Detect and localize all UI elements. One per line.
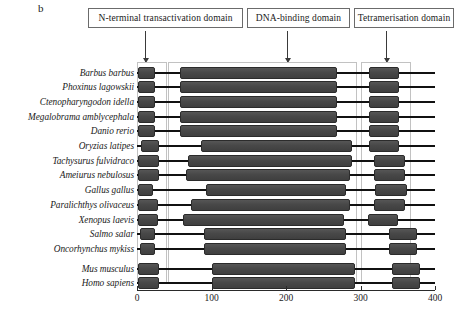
domain-box-n-terminal: [138, 81, 154, 93]
axis-tick-label: 200: [266, 293, 306, 303]
domain-box-dna-binding: [212, 263, 355, 275]
domain-box-tetramerisation: [369, 111, 399, 123]
domain-box-tetramerisation: [369, 67, 399, 79]
arrow-n-terminal-icon: [141, 31, 150, 62]
domain-box-tetramerisation: [389, 228, 417, 240]
domain-box-n-terminal: [141, 140, 159, 152]
domain-box-tetramerisation: [368, 214, 398, 226]
species-label: Xenopus laevis: [79, 213, 134, 227]
domain-box-tetramerisation: [389, 243, 417, 255]
table-row: Tachysurus fulvidraco: [0, 154, 455, 168]
table-row: Oryzias latipes: [0, 139, 455, 153]
species-label: Ameiurus nebulosus: [60, 168, 134, 182]
axis-tick: [361, 286, 362, 290]
domain-box-dna-binding: [212, 277, 355, 289]
figure-panel-b: b N-terminal transactivation domain DNA-…: [0, 0, 455, 310]
domain-box-tetramerisation: [369, 81, 399, 93]
domain-box-dna-binding: [201, 140, 351, 152]
domain-box-n-terminal: [138, 277, 159, 289]
axis-tick-label: 0: [117, 293, 157, 303]
axis-line: [137, 290, 435, 291]
domain-box-tetramerisation: [369, 96, 399, 108]
domain-box-dna-binding: [183, 214, 344, 226]
domain-box-n-terminal: [138, 263, 159, 275]
species-label: Homo sapiens: [82, 276, 134, 290]
domain-box-n-terminal: [140, 228, 155, 240]
domain-box-dna-binding: [180, 67, 336, 79]
domain-box-n-terminal: [138, 169, 159, 181]
domain-box-n-terminal: [138, 111, 154, 123]
domain-box-n-terminal: [138, 96, 154, 108]
species-label: Gallus gallus: [85, 183, 134, 197]
species-label: Paralichthys olivaceus: [50, 198, 134, 212]
axis-tick-label: 400: [415, 293, 455, 303]
domain-box-tetramerisation: [375, 184, 406, 196]
domain-box-tetramerisation: [374, 169, 405, 181]
table-row: Ctenopharyngodon idella: [0, 95, 455, 109]
domain-box-dna-binding: [188, 155, 352, 167]
table-row: Ameiurus nebulosus: [0, 168, 455, 182]
domain-box-dna-binding: [180, 96, 336, 108]
axis-tick: [212, 286, 213, 290]
panel-letter: b: [38, 2, 44, 14]
domain-box-dna-binding: [180, 111, 336, 123]
table-row: Megalobrama amblycephala: [0, 110, 455, 124]
species-label: Barbus barbus: [80, 66, 134, 80]
table-row: Gallus gallus: [0, 183, 455, 197]
domain-box-tetramerisation: [369, 140, 399, 152]
table-row: Mus musculus: [0, 262, 455, 276]
table-row: Danio rerio: [0, 124, 455, 138]
domain-box-tetramerisation: [392, 277, 420, 289]
domain-box-tetramerisation: [392, 263, 420, 275]
domain-box-dna-binding: [204, 228, 346, 240]
domain-box-n-terminal: [138, 67, 154, 79]
species-label: Oncorhynchus mykiss: [54, 242, 134, 256]
table-row: Paralichthys olivaceus: [0, 198, 455, 212]
axis-tick: [137, 286, 138, 290]
table-row: Barbus barbus: [0, 66, 455, 80]
domain-label-dna-binding: DNA-binding domain: [247, 8, 350, 28]
domain-box-dna-binding: [191, 199, 350, 211]
domain-box-tetramerisation: [374, 199, 405, 211]
domain-box-dna-binding: [204, 243, 346, 255]
species-label: Salmo salar: [90, 227, 134, 241]
table-row: Oncorhynchus mykiss: [0, 242, 455, 256]
species-label: Danio rerio: [91, 124, 134, 138]
axis-tick: [286, 286, 287, 290]
domain-box-dna-binding: [186, 169, 350, 181]
domain-box-n-terminal: [138, 155, 159, 167]
domain-box-dna-binding: [206, 184, 346, 196]
table-row: Homo sapiens: [0, 276, 455, 290]
axis-tick-label: 300: [341, 293, 381, 303]
species-label: Ctenopharyngodon idella: [40, 95, 134, 109]
axis-tick-label: 100: [192, 293, 232, 303]
domain-label-n-terminal: N-terminal transactivation domain: [88, 8, 243, 28]
domain-box-n-terminal: [138, 199, 157, 211]
species-label: Mus musculus: [82, 262, 134, 276]
domain-box-tetramerisation: [369, 125, 399, 137]
domain-box-dna-binding: [180, 81, 336, 93]
domain-box-n-terminal: [140, 243, 155, 255]
table-row: Salmo salar: [0, 227, 455, 241]
domain-label-tetramerisation: Tetramerisation domain: [354, 8, 454, 28]
arrow-tetramerisation-icon: [382, 31, 391, 62]
species-label: Phoxinus lagowskii: [62, 80, 134, 94]
species-label: Oryzias latipes: [79, 139, 134, 153]
domain-box-n-terminal: [138, 184, 153, 196]
domain-box-dna-binding: [180, 125, 336, 137]
species-label: Tachysurus fulvidraco: [52, 154, 134, 168]
table-row: Phoxinus lagowskii: [0, 80, 455, 94]
axis-tick: [435, 286, 436, 290]
species-label: Megalobrama amblycephala: [28, 110, 134, 124]
arrow-dna-binding-icon: [283, 31, 292, 62]
table-row: Xenopus laevis: [0, 213, 455, 227]
domain-box-tetramerisation: [374, 155, 405, 167]
domain-box-n-terminal: [138, 214, 157, 226]
domain-box-n-terminal: [138, 125, 154, 137]
